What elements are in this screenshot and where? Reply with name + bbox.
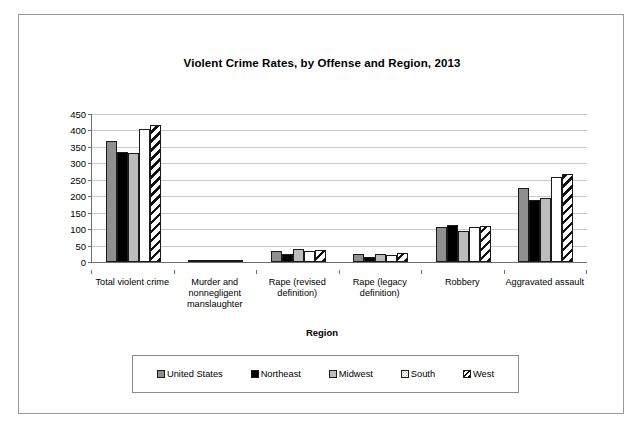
x-axis-category-label: Rape (legacy definition) <box>333 277 428 299</box>
bar <box>551 177 562 262</box>
y-axis-tick-label: 450 <box>56 109 86 120</box>
y-axis-tick-label: 300 <box>56 158 86 169</box>
bar <box>150 125 161 262</box>
bar <box>117 152 128 262</box>
bar-group <box>175 114 258 262</box>
legend-swatch-icon <box>251 370 259 378</box>
x-axis-category-labels: Total violent crimeMurder and nonneglige… <box>91 270 586 318</box>
bar <box>199 260 210 262</box>
legend-item-label: West <box>473 369 494 379</box>
bar <box>375 254 386 262</box>
bar <box>518 188 529 262</box>
y-axis-tick-label: 200 <box>56 191 86 202</box>
legend-item[interactable]: United States <box>157 369 223 379</box>
legend-item[interactable]: Northeast <box>251 369 301 379</box>
plot-wrapper: 050100150200250300350400450 <box>91 114 586 269</box>
y-axis-title: Rate per 100,000 population <box>40 0 52 111</box>
legend-swatch-icon <box>463 370 471 378</box>
bar <box>458 231 469 262</box>
x-axis-tick-mark <box>504 270 505 274</box>
bar <box>480 226 491 262</box>
bar <box>353 254 364 262</box>
x-axis-title: Region <box>19 327 625 338</box>
bar <box>304 251 315 262</box>
bar <box>188 260 199 262</box>
bar <box>106 141 117 262</box>
bar-group <box>257 114 340 262</box>
legend-item-label: South <box>411 369 435 379</box>
legend-item[interactable]: West <box>463 369 494 379</box>
bar <box>562 174 573 262</box>
bar <box>221 260 232 262</box>
legend-item-label: United States <box>167 369 223 379</box>
legend-item-label: Northeast <box>261 369 301 379</box>
bar-group <box>340 114 423 262</box>
bar <box>540 198 551 262</box>
bar <box>436 227 447 262</box>
x-axis-tick-mark <box>586 270 587 274</box>
bars-layer <box>92 114 587 262</box>
legend-item[interactable]: South <box>401 369 435 379</box>
y-axis-tick-label: 150 <box>56 207 86 218</box>
x-axis-tick-mark <box>256 270 257 274</box>
y-axis-tick-label: 0 <box>56 257 86 268</box>
x-axis-category-label: Robbery <box>415 277 510 288</box>
legend-item[interactable]: Midwest <box>329 369 373 379</box>
chart-page-frame: Violent Crime Rates, by Offense and Regi… <box>18 14 624 414</box>
legend-swatch-icon <box>401 370 409 378</box>
bar <box>139 129 150 262</box>
bar <box>364 257 375 262</box>
x-axis-category-label: Aggravated assault <box>498 277 593 288</box>
bar <box>447 225 458 262</box>
y-axis-tick-label: 250 <box>56 174 86 185</box>
bar <box>271 251 282 262</box>
bar <box>315 250 326 262</box>
chart-title: Violent Crime Rates, by Offense and Regi… <box>19 57 625 69</box>
x-axis-tick-mark <box>421 270 422 274</box>
x-axis-tick-mark <box>339 270 340 274</box>
bar <box>469 227 480 262</box>
bar <box>293 249 304 262</box>
bar <box>529 200 540 262</box>
x-axis-tick-mark <box>91 270 92 274</box>
bar <box>128 153 139 262</box>
x-axis-category-label: Rape (revised definition) <box>250 277 345 299</box>
plot-area: 050100150200250300350400450 <box>91 114 587 263</box>
bar-group <box>505 114 588 262</box>
y-axis-tick-label: 50 <box>56 240 86 251</box>
bar <box>210 260 221 262</box>
y-axis-tick-label: 350 <box>56 141 86 152</box>
y-axis-tick-label: 100 <box>56 224 86 235</box>
legend-item-label: Midwest <box>339 369 373 379</box>
bar-group <box>422 114 505 262</box>
bar <box>232 260 243 262</box>
y-axis-tick-mark <box>88 262 92 263</box>
x-axis-category-label: Murder and nonnegligent manslaughter <box>168 277 263 310</box>
bar-group <box>92 114 175 262</box>
bar <box>397 253 408 262</box>
chart-legend: United StatesNortheastMidwestSouthWest <box>132 355 519 393</box>
legend-swatch-icon <box>329 370 337 378</box>
x-axis-tick-mark <box>174 270 175 274</box>
legend-swatch-icon <box>157 370 165 378</box>
y-axis-tick-label: 400 <box>56 125 86 136</box>
bar <box>386 255 397 262</box>
bar <box>282 254 293 262</box>
x-axis-category-label: Total violent crime <box>85 277 180 288</box>
